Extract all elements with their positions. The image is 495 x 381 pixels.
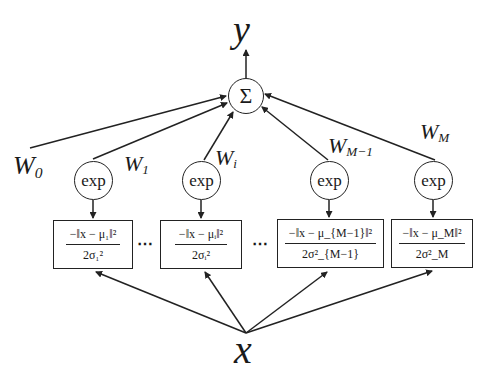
- gaussian-box-1: −‖x − μ₁‖² 2σ₁²: [53, 220, 133, 269]
- denominator: 2σ²_M: [416, 244, 449, 262]
- weight-label-w0: W0: [13, 153, 42, 180]
- weight-label-w1: W1: [124, 153, 149, 177]
- arrow-x-to-boxi: [205, 272, 246, 333]
- numerator: −‖x − μᵢ‖²: [175, 227, 227, 245]
- gaussian-box-i: −‖x − μᵢ‖² 2σᵢ²: [160, 220, 242, 269]
- arrow-w0-to-sum: [30, 96, 226, 148]
- denominator: 2σᵢ²: [192, 245, 210, 263]
- arrow-x-to-boxM: [246, 271, 432, 333]
- weight-label-wM-1: WM−1: [328, 135, 373, 159]
- numerator: −‖x − μ_{M−1}‖²: [285, 226, 376, 244]
- gaussian-box-M-1: −‖x − μ_{M−1}‖² 2σ²_{M−1}: [277, 219, 384, 268]
- gaussian-box-M: −‖x − μ_M‖² 2σ²_M: [391, 219, 473, 268]
- denominator: 2σ₁²: [83, 245, 103, 263]
- ellipsis-2: ⋯: [252, 234, 269, 253]
- arrow-x-to-boxM1: [246, 272, 327, 333]
- ellipsis-1: ⋯: [137, 234, 154, 253]
- numerator: −‖x − μ_M‖²: [399, 226, 466, 244]
- weight-label-wM: WM: [420, 121, 449, 145]
- sigma-symbol: Σ: [240, 83, 253, 109]
- output-label-y: y: [233, 10, 250, 48]
- denominator: 2σ²_{M−1}: [302, 244, 359, 262]
- exp-node-M: exp: [414, 161, 453, 200]
- input-label-x: x: [234, 330, 252, 370]
- arrow-x-to-box1: [96, 272, 246, 333]
- numerator: −‖x − μ₁‖²: [66, 227, 121, 245]
- exp-node-1: exp: [74, 161, 113, 200]
- weight-label-wi: Wi: [215, 147, 237, 171]
- arrow-unit1-to-sum: [93, 103, 227, 159]
- exp-node-M-1: exp: [310, 161, 349, 200]
- exp-node-i: exp: [182, 161, 221, 200]
- sum-node: Σ: [228, 78, 264, 114]
